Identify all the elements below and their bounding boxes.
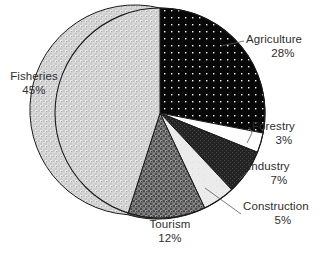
slice-label-construction-name: Construction <box>243 200 326 214</box>
pie-chart: Agriculture 28% Forestry 3% Industry 7% … <box>0 0 326 254</box>
slice-label-fisheries-value: 45% <box>2 84 66 98</box>
slice-label-tourism-value: 12% <box>130 232 210 246</box>
slice-label-agriculture-name: Agriculture <box>246 33 326 47</box>
slice-label-forestry-value: 3% <box>252 134 316 148</box>
pie-slice-agriculture[interactable] <box>160 8 265 133</box>
slice-label-tourism: Tourism 12% <box>130 218 210 245</box>
slice-label-industry-value: 7% <box>248 174 310 188</box>
slice-label-agriculture-value: 28% <box>246 47 320 61</box>
slice-label-tourism-name: Tourism <box>130 218 210 232</box>
slice-label-forestry-name: Forestry <box>252 120 326 134</box>
slice-label-forestry: Forestry 3% <box>252 120 326 147</box>
pie-slices <box>30 5 265 219</box>
slice-label-industry-name: Industry <box>248 160 326 174</box>
slice-label-construction-value: 5% <box>243 214 323 228</box>
slice-label-fisheries-name: Fisheries <box>2 70 66 84</box>
slice-label-industry: Industry 7% <box>248 160 326 187</box>
slice-label-fisheries: Fisheries 45% <box>2 70 66 97</box>
slice-label-construction: Construction 5% <box>243 200 326 227</box>
slice-label-agriculture: Agriculture 28% <box>246 33 326 60</box>
